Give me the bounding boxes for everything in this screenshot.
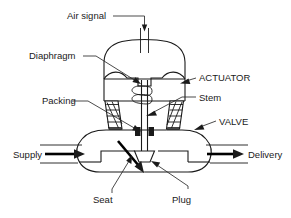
- seat-leader: [112, 155, 132, 193]
- label-plug: Plug: [172, 194, 191, 205]
- packing-left: [105, 101, 122, 129]
- label-delivery: Delivery: [248, 149, 283, 160]
- packing-right: [167, 101, 184, 129]
- label-packing: Packing: [42, 95, 76, 106]
- delivery-flow-arrow: [206, 145, 248, 163]
- diaphragm-leader: [83, 56, 141, 84]
- label-air-signal: Air signal: [67, 10, 106, 21]
- control-valve-diagram: Air signal Diaphragm Packing Supply Seat…: [0, 0, 291, 218]
- diagram-canvas: Air signal Diaphragm Packing Supply Seat…: [0, 0, 291, 218]
- plug: [135, 151, 155, 162]
- stem: [142, 80, 148, 152]
- valve-leader: [194, 121, 216, 130]
- label-diaphragm: Diaphragm: [29, 50, 76, 61]
- air-signal-leader: [113, 16, 147, 32]
- label-stem: Stem: [199, 92, 221, 103]
- plug-leader: [151, 161, 188, 189]
- air-signal-inlet-tube: [141, 28, 149, 53]
- label-valve: VALVE: [219, 116, 248, 127]
- label-supply: Supply: [13, 149, 42, 160]
- label-actuator: ACTUATOR: [199, 72, 251, 83]
- actuator-housing: [104, 40, 185, 102]
- label-seat: Seat: [93, 194, 113, 205]
